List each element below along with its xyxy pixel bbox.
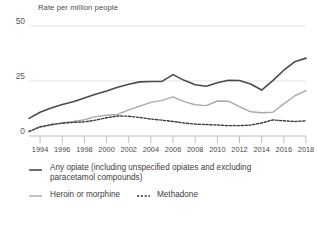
series-line-0 [29, 58, 306, 118]
x-tick-1998: 1998 [76, 145, 92, 154]
plot-svg [29, 26, 306, 136]
x-tick-2010: 2010 [209, 145, 225, 154]
x-tick-2014: 2014 [253, 145, 269, 154]
x-tick-2000: 2000 [98, 145, 114, 154]
x-tick-1996: 1996 [54, 145, 70, 154]
x-tick-2012: 2012 [231, 145, 247, 154]
legend-label-any-opiate-line2: paracetamol compounds) [50, 173, 142, 184]
chart-axis-title: Rate per million people [38, 3, 118, 12]
x-axis-labels: 1994199619982000200220042006200820102012… [0, 145, 317, 157]
series-line-1 [29, 91, 306, 131]
x-tick-2006: 2006 [165, 145, 181, 154]
legend-marker-solid-light-icon [29, 194, 43, 198]
chart-legend: Any opiate (including unspecified opiate… [0, 163, 317, 176]
series-line-2 [29, 116, 306, 132]
plot-area [29, 26, 306, 136]
y-tick-50: 50 [3, 16, 25, 26]
x-tick-2004: 2004 [143, 145, 159, 154]
legend-marker-solid-dark-icon [29, 168, 43, 172]
legend-label-any-opiate-line1: Any opiate (including unspecified opiate… [50, 163, 251, 174]
gridlines [29, 26, 306, 136]
x-tick-1994: 1994 [32, 145, 48, 154]
legend-label-heroin: Heroin or morphine [50, 190, 120, 199]
series-lines [29, 58, 306, 131]
y-tick-0: 0 [3, 126, 25, 136]
y-tick-25: 25 [3, 71, 25, 81]
chart-figure: Rate per million people 50 25 0 19941996… [0, 0, 317, 226]
legend-marker-dotted-icon [137, 194, 151, 198]
x-tick-marks [40, 136, 306, 143]
legend-label-methadone: Methadone [157, 190, 198, 199]
x-tick-2016: 2016 [276, 145, 292, 154]
x-tick-2002: 2002 [120, 145, 136, 154]
x-tick-2008: 2008 [187, 145, 203, 154]
x-tick-2018: 2018 [298, 145, 314, 154]
